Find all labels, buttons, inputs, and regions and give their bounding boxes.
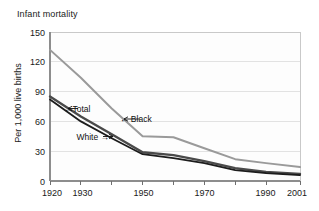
x-tick-1930: 1930 <box>72 188 92 198</box>
x-tick-marks <box>50 181 300 185</box>
x-tick-1920: 1920 <box>42 188 62 198</box>
y-tick-labels: 150 120 90 60 30 0 <box>30 28 45 187</box>
infant-mortality-chart-figure: Infant mortality Per 1,000 live births <box>0 0 319 211</box>
annotation-white: White → <box>76 132 109 142</box>
y-tick-90: 90 <box>35 87 45 97</box>
x-tick-1950: 1950 <box>133 188 153 198</box>
x-tick-2001: 2001 <box>287 188 307 198</box>
y-tick-60: 60 <box>35 117 45 127</box>
annotation-black: ← Black <box>120 114 152 124</box>
y-tick-0: 0 <box>40 177 45 187</box>
y-tick-30: 30 <box>35 147 45 157</box>
x-tick-labels: 1920 1930 1950 1970 1990 2001 <box>42 188 307 198</box>
annotation-total: ←Total <box>64 104 91 114</box>
y-tick-120: 120 <box>30 57 45 67</box>
x-tick-1990: 1990 <box>255 188 275 198</box>
plot-canvas: 150 120 90 60 30 0 1920 1930 1950 1970 1… <box>0 0 319 211</box>
y-tick-150: 150 <box>30 28 45 38</box>
x-tick-1970: 1970 <box>194 188 214 198</box>
